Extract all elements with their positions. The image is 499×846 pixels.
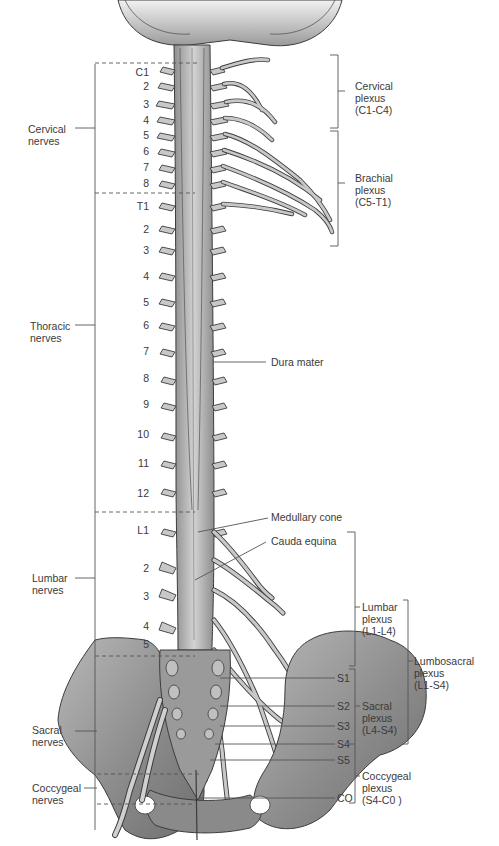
label-cervical-plexus: Cervical plexus (C1-C4) [355, 80, 393, 116]
label-sacral-nerves: Sacral nerves [32, 724, 64, 748]
segment-c3: 3 [127, 98, 149, 110]
label-line: nerves [32, 794, 81, 806]
label-line: nerves [28, 135, 66, 147]
plexus-word: plexus [362, 782, 411, 794]
segment-t6: 6 [127, 319, 149, 331]
label-line: nerves [30, 332, 70, 344]
label-lumbar-plexus: Lumbar plexus (L1-L4) [362, 601, 398, 637]
segment-s5: S5 [337, 754, 350, 766]
plexus-word: plexus [362, 712, 397, 724]
segment-l4: 4 [127, 620, 149, 632]
segment-t10: 10 [127, 428, 149, 440]
segment-t5: 5 [127, 296, 149, 308]
segment-t12: 12 [127, 487, 149, 499]
label-line: Thoracic [30, 320, 70, 332]
plexus-range: (S4-C0 ) [362, 794, 411, 806]
segment-c8: 8 [127, 177, 149, 189]
label-cauda-equina: Cauda equina [271, 535, 336, 547]
plexus-name: Lumbosacral [414, 655, 474, 667]
segment-c7: 7 [127, 161, 149, 173]
plexus-name: Brachial [355, 172, 393, 184]
label-line: nerves [32, 584, 68, 596]
segment-t8: 8 [127, 372, 149, 384]
label-brachial-plexus: Brachial plexus (C5-T1) [355, 172, 393, 208]
label-lumbar-nerves: Lumbar nerves [32, 572, 68, 596]
segment-c4: 4 [127, 114, 149, 126]
segment-t2: 2 [127, 223, 149, 235]
plexus-range: (L4-S4) [362, 724, 397, 736]
segment-c5: 5 [127, 129, 149, 141]
segment-l2: 2 [127, 562, 149, 574]
plexus-name: Cervical [355, 80, 393, 92]
label-line: Sacral [32, 724, 64, 736]
spinal-cord [174, 45, 214, 650]
segment-t11: 11 [127, 457, 149, 469]
label-line: Lumbar [32, 572, 68, 584]
segment-s1: S1 [337, 672, 350, 684]
segment-l3: 3 [127, 590, 149, 602]
segment-s2: S2 [337, 700, 350, 712]
segment-t7: 7 [127, 345, 149, 357]
plexus-name: Coccygeal [362, 770, 411, 782]
plexus-word: plexus [414, 667, 474, 679]
plexus-name: Sacral [362, 700, 397, 712]
plexus-word: plexus [355, 92, 393, 104]
segment-s3: S3 [337, 720, 350, 732]
segment-t4: 4 [127, 270, 149, 282]
plexus-range: (L1-L4) [362, 625, 398, 637]
plexus-range: (L1-S4) [414, 679, 474, 691]
label-line: Cervical [28, 123, 66, 135]
label-coccygeal-plexus: Coccygeal plexus (S4-C0 ) [362, 770, 411, 806]
plexus-word: plexus [355, 184, 393, 196]
plexus-range: (C1-C4) [355, 104, 393, 116]
label-medullary-cone: Medullary cone [271, 511, 342, 523]
label-sacral-plexus: Sacral plexus (L4-S4) [362, 700, 397, 736]
label-lumbosacral-plexus: Lumbosacral plexus (L1-S4) [414, 655, 474, 691]
segment-s4: S4 [337, 738, 350, 750]
label-thoracic-nerves: Thoracic nerves [30, 320, 70, 344]
plexus-range: (C5-T1) [355, 196, 393, 208]
label-line: Coccygeal [32, 782, 81, 794]
spinal-cord-illustration [0, 0, 499, 846]
plexus-word: plexus [362, 613, 398, 625]
label-cervical-nerves: Cervical nerves [28, 123, 66, 147]
segment-c6: 6 [127, 145, 149, 157]
segment-l1: L1 [127, 524, 149, 536]
segment-co: CO [337, 792, 353, 804]
segment-t3: 3 [127, 244, 149, 256]
plexus-name: Lumbar [362, 601, 398, 613]
label-dura-mater: Dura mater [271, 356, 324, 368]
label-line: nerves [32, 736, 64, 748]
segment-l5: 5 [127, 638, 149, 650]
segment-c1: C1 [127, 66, 149, 78]
skull-base [118, 0, 342, 46]
segment-t9: 9 [127, 398, 149, 410]
segment-t1: T1 [127, 200, 149, 212]
segment-c2: 2 [127, 80, 149, 92]
label-coccygeal-nerves: Coccygeal nerves [32, 782, 81, 806]
